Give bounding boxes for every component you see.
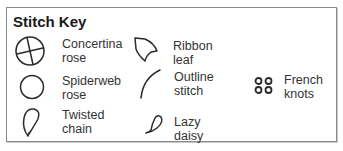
key-item-label: Lazy daisy	[174, 115, 203, 143]
key-item-label: Outline stitch	[174, 70, 214, 98]
key-title: Stitch Key	[13, 13, 86, 30]
curve-line-icon	[137, 68, 163, 102]
key-item-label: Ribbon leaf	[173, 39, 213, 67]
circle-cross-icon	[14, 35, 46, 67]
teardrop-loop-icon	[20, 106, 42, 138]
circle-icon	[19, 74, 45, 100]
ribbon-leaf-icon	[133, 35, 161, 65]
key-item-label: French knots	[284, 73, 323, 101]
key-item-label: Concertina rose	[62, 37, 122, 65]
key-item-label: Spiderweb rose	[62, 74, 121, 102]
key-item-label: Twisted chain	[62, 108, 104, 136]
petal-icon	[143, 112, 167, 136]
four-dots-icon	[254, 76, 274, 96]
